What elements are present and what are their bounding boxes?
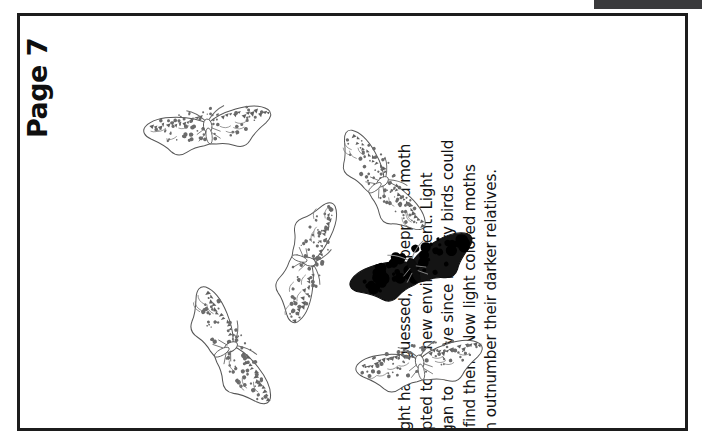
moth-light-1 [133,73,283,183]
moth-light-6 [345,309,495,419]
scan-edge-bar [594,0,702,9]
page-frame: Page 7 As you might have guessed, the pe… [17,13,688,431]
moth-dark-4 [338,212,488,322]
page-label: Page 7 [20,28,61,138]
page-content-area: Page 7 As you might have guessed, the pe… [20,16,685,428]
moth-light-5 [154,293,304,403]
